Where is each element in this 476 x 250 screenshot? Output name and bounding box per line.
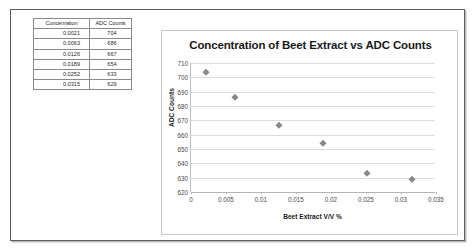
data-point — [364, 170, 370, 176]
x-tick-mark — [191, 192, 192, 194]
plot-area: 71070069068067066065064063062000.0050.01… — [190, 63, 435, 192]
scanned-page: Concenration ADC Counts 0.00217040.00636… — [0, 0, 476, 250]
data-point — [320, 140, 326, 146]
gridline-y — [191, 63, 435, 64]
x-tick-mark — [401, 192, 402, 194]
cell-concentration: 0.0021 — [34, 29, 90, 39]
table-body: 0.00217040.00636860.01266670.01896540.02… — [34, 29, 132, 90]
y-tick-label: 690 — [177, 88, 188, 95]
table-row: 0.0189654 — [34, 59, 132, 69]
table-row: 0.0126667 — [34, 49, 132, 59]
x-tick-mark — [436, 192, 437, 194]
gridline-y — [191, 192, 435, 193]
x-tick-label: 0.01 — [255, 196, 267, 203]
gridline-y — [191, 135, 435, 136]
cell-concentration: 0.0063 — [34, 39, 90, 49]
gridline-y — [191, 120, 435, 121]
data-point — [202, 68, 208, 74]
cell-adc-counts: 704 — [90, 29, 132, 39]
data-table-container: Concenration ADC Counts 0.00217040.00636… — [33, 18, 131, 90]
x-tick-label: 0.025 — [358, 196, 374, 203]
gridline-y — [191, 163, 435, 164]
x-tick-mark — [296, 192, 297, 194]
x-tick-label: 0.02 — [325, 196, 337, 203]
data-point — [408, 176, 414, 182]
chart-panel: Concentration of Beet Extract vs ADC Cou… — [161, 30, 458, 235]
y-tick-label: 650 — [177, 146, 188, 153]
cell-adc-counts: 633 — [90, 70, 132, 80]
y-axis-title: ADC Counts — [168, 88, 175, 127]
cell-concentration: 0.0252 — [34, 70, 90, 80]
x-tick-label: 0.005 — [218, 196, 234, 203]
cell-adc-counts: 686 — [90, 39, 132, 49]
cell-concentration: 0.0189 — [34, 59, 90, 69]
table-row: 0.0021704 — [34, 29, 132, 39]
chart-title: Concentration of Beet Extract vs ADC Cou… — [162, 39, 459, 51]
y-tick-label: 660 — [177, 131, 188, 138]
concentration-table: Concenration ADC Counts 0.00217040.00636… — [33, 18, 132, 90]
gridline-y — [191, 77, 435, 78]
x-tick-label: 0.035 — [428, 196, 444, 203]
x-tick-mark — [366, 192, 367, 194]
cell-adc-counts: 667 — [90, 49, 132, 59]
data-point — [276, 121, 282, 127]
x-tick-label: 0.015 — [288, 196, 304, 203]
cell-adc-counts: 654 — [90, 59, 132, 69]
table-row: 0.0252633 — [34, 70, 132, 80]
table-header-adc-counts: ADC Counts — [90, 19, 132, 29]
y-tick-label: 710 — [177, 60, 188, 67]
x-axis-title: Beet Extract V/V % — [190, 213, 435, 220]
x-tick-mark — [226, 192, 227, 194]
gridline-y — [191, 92, 435, 93]
gridline-y — [191, 178, 435, 179]
x-tick-label: 0.03 — [395, 196, 407, 203]
y-tick-label: 700 — [177, 74, 188, 81]
y-tick-label: 680 — [177, 103, 188, 110]
x-tick-mark — [261, 192, 262, 194]
table-header-row: Concenration ADC Counts — [34, 19, 132, 29]
cell-concentration: 0.0315 — [34, 80, 90, 90]
y-tick-label: 670 — [177, 117, 188, 124]
cell-concentration: 0.0126 — [34, 49, 90, 59]
x-tick-label: 0 — [189, 196, 193, 203]
gridline-y — [191, 106, 435, 107]
y-tick-label: 620 — [177, 189, 188, 196]
gridline-y — [191, 149, 435, 150]
content-frame: Concenration ADC Counts 0.00217040.00636… — [10, 9, 465, 241]
table-header-concentration: Concenration — [34, 19, 90, 29]
cell-adc-counts: 629 — [90, 80, 132, 90]
table-row: 0.0315629 — [34, 80, 132, 90]
data-point — [232, 94, 238, 100]
y-tick-label: 640 — [177, 160, 188, 167]
x-tick-mark — [331, 192, 332, 194]
table-row: 0.0063686 — [34, 39, 132, 49]
y-tick-label: 630 — [177, 174, 188, 181]
